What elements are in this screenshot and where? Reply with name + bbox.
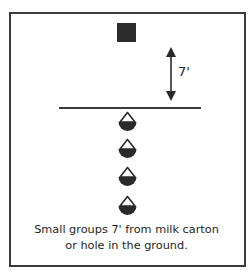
caption-line-2: or hole in the ground. (12, 238, 241, 254)
double-arrow-icon (164, 47, 178, 101)
milk-carton-target (117, 23, 136, 42)
distance-label: 7' (178, 64, 190, 79)
start-line (59, 107, 201, 109)
player-icon (117, 195, 138, 216)
caption: Small groups 7' from milk carton or hole… (12, 222, 241, 254)
player-icon (117, 138, 138, 159)
player-icon (117, 166, 138, 187)
caption-line-1: Small groups 7' from milk carton (12, 222, 241, 238)
player-icon (117, 111, 138, 132)
title-fragment (60, 0, 190, 3)
